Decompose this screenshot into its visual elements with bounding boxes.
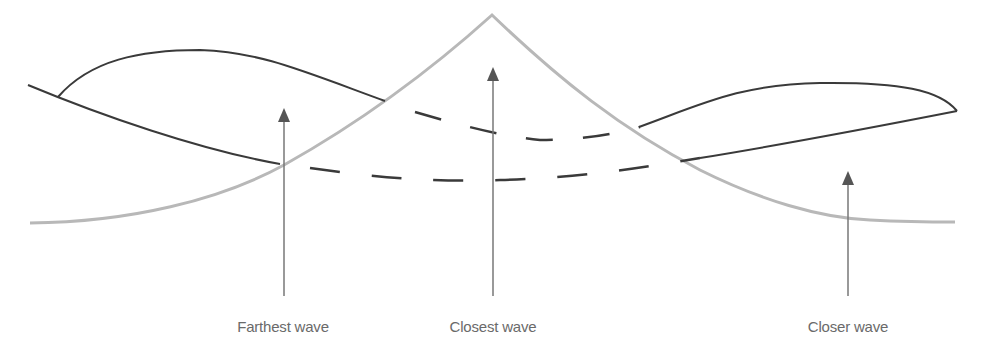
- farthest-wave-upper: [58, 50, 385, 101]
- closer-wave-hidden-dashed: [415, 112, 640, 140]
- arrow-closer: [842, 171, 854, 296]
- label-closest-wave: Closest wave: [450, 318, 537, 335]
- label-farthest-wave: Farthest wave: [237, 318, 329, 335]
- label-closer-wave: Closer wave: [808, 318, 888, 335]
- farthest-wave-lower: [28, 85, 280, 164]
- farthest-wave-hidden-dashed: [310, 158, 700, 181]
- closer-wave-lower: [700, 111, 957, 158]
- arrow-farthest: [278, 108, 290, 296]
- arrow-closest: [487, 67, 499, 296]
- wave-diagram: [0, 0, 985, 348]
